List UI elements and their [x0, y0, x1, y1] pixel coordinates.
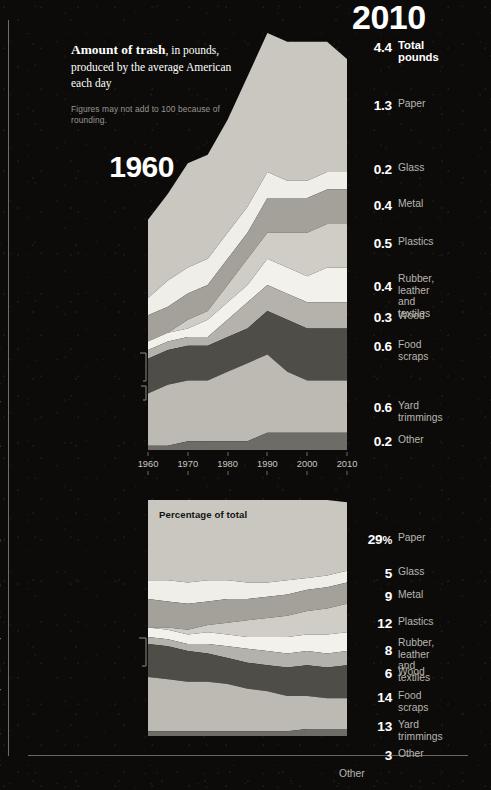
- bracket-percent-rubber-wood: [139, 638, 146, 666]
- pounds-2010-yard-trimmings-label: Yard trimmings: [398, 400, 443, 423]
- percent-2010-other-label: Other: [398, 748, 424, 760]
- percent-2010-paper-value: 29%: [356, 532, 392, 547]
- axis-tick-label-1980: 1980: [217, 459, 238, 469]
- axis-tick-lower: [187, 471, 188, 475]
- axis-tick: [347, 452, 348, 456]
- axis-tick-label-1970: 1970: [177, 459, 198, 469]
- pounds-2010-plastics-label: Plastics: [398, 236, 433, 248]
- pounds-2010-glass-label: Glass: [398, 162, 424, 174]
- pounds-2010-glass-value: 0.2: [356, 162, 392, 177]
- pounds-2010-total-label: Total pounds: [398, 40, 439, 63]
- axis-tick: [148, 452, 149, 456]
- percentage-area-chart-svg: [148, 500, 347, 736]
- percent-2010-other-value: 3: [356, 748, 392, 763]
- percent-2010-food-scraps-value: 14: [356, 690, 392, 705]
- axis-tick-label-2010: 2010: [337, 459, 358, 469]
- pounds-2010-food-scraps-label: Food scraps: [398, 339, 428, 362]
- pounds-2010-metal-label: Metal: [398, 198, 423, 210]
- pounds-area-chart: [148, 33, 347, 450]
- percent-2010-glass-label: Glass: [398, 566, 424, 578]
- percent-2010-yard-trimmings-label: Yard trimmings: [398, 719, 443, 742]
- pounds-2010-other-value: 0.2: [356, 434, 392, 449]
- pounds-2010-rubber-leather-value: 0.4: [356, 279, 392, 294]
- pounds-2010-yard-trimmings-value: 0.6: [356, 400, 392, 415]
- axis-tick-lower: [347, 471, 348, 475]
- pounds-2010-wood-label: Wood: [398, 310, 425, 322]
- axis-tick-lower: [307, 471, 308, 475]
- left-frame-rule: [8, 20, 9, 756]
- percent-2010-paper-label: Paper: [398, 532, 425, 544]
- percent-2010-rubber-leather-value: 8: [356, 643, 392, 658]
- footer-other-label: Other: [339, 768, 365, 779]
- pounds-2010-metal-value: 0.4: [356, 198, 392, 213]
- percentage-chart-title: Percentage of total: [159, 509, 247, 520]
- percent-2010-paper-unit: %: [382, 534, 392, 546]
- year-title-2010: 2010: [352, 0, 426, 34]
- pounds-2010-wood-value: 0.3: [356, 310, 392, 325]
- axis-tick-lower: [227, 471, 228, 475]
- percent-2010-wood-label: Wood: [398, 666, 425, 678]
- pounds-2010-paper-value: 1.3: [356, 98, 392, 113]
- percentage-area-chart: Percentage of total: [148, 500, 347, 736]
- axis-tick: [227, 452, 228, 456]
- axis-tick-lower: [267, 471, 268, 475]
- axis-tick: [267, 452, 268, 456]
- axis-tick: [187, 452, 188, 456]
- axis-tick-lower: [148, 471, 149, 475]
- pounds-2010-plastics-value: 0.5: [356, 236, 392, 251]
- percent-2010-yard-trimmings-value: 13: [356, 719, 392, 734]
- percent-2010-wood-value: 6: [356, 666, 392, 681]
- axis-tick-label-1990: 1990: [257, 459, 278, 469]
- percent-2010-metal-label: Metal: [398, 589, 423, 601]
- axis-tick-label-1960: 1960: [138, 459, 159, 469]
- bracket-pounds-rubber-wood: [140, 353, 146, 381]
- year-axis: 196019701980199020002010: [128, 452, 368, 474]
- percent-2010-glass-value: 5: [356, 566, 392, 581]
- percent-2010-food-scraps-label: Food scraps: [398, 690, 428, 713]
- axis-tick: [307, 452, 308, 456]
- percent-2010-plastics-label: Plastics: [398, 616, 433, 628]
- pounds-2010-total-value: 4.4: [356, 40, 392, 55]
- bracket-pounds-wood-food: [141, 386, 146, 400]
- pounds-2010-food-scraps-value: 0.6: [356, 339, 392, 354]
- pounds-2010-paper-label: Paper: [398, 98, 425, 110]
- pounds-2010-other-label: Other: [398, 434, 424, 446]
- percent-2010-plastics-value: 12: [356, 616, 392, 631]
- pounds-area-chart-svg: [148, 33, 347, 450]
- axis-tick-label-2000: 2000: [297, 459, 318, 469]
- percent-2010-metal-value: 9: [356, 589, 392, 604]
